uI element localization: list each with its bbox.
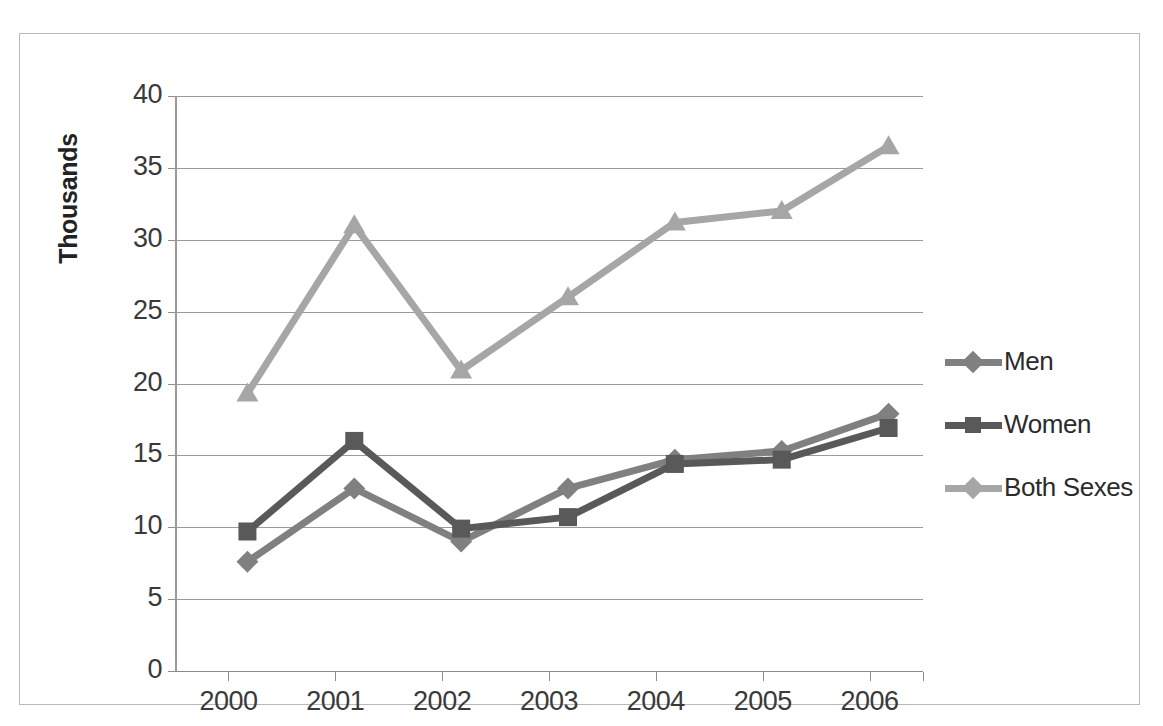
diamond-marker-icon: [557, 477, 579, 499]
diamond-marker-icon: [450, 531, 472, 553]
gridline: [175, 384, 923, 385]
x-axis-tick: [763, 672, 764, 681]
x-axis-tick: [870, 672, 871, 681]
y-axis-tick-labels: 0510152025303540: [82, 34, 162, 726]
y-axis-tick-label: 0: [102, 656, 162, 683]
legend-key-men: [945, 351, 1002, 373]
legend-key-both-sexes: [945, 477, 1002, 499]
x-axis-tick: [335, 672, 336, 681]
y-axis-tick: [168, 312, 175, 313]
square-marker-icon: [452, 520, 470, 538]
triangle-marker-icon: [878, 135, 900, 154]
legend-item-both-sexes[interactable]: Both Sexes: [945, 456, 1155, 519]
legend-item-women[interactable]: Women: [945, 393, 1155, 456]
diamond-marker-icon: [962, 350, 985, 373]
diamond-marker-icon: [343, 477, 365, 499]
x-axis-tick: [442, 672, 443, 681]
y-axis-tick: [168, 671, 175, 672]
series-both-sexes: [236, 135, 899, 401]
series-line: [247, 428, 888, 532]
y-axis-tick-label: 40: [102, 81, 162, 108]
series-men: [236, 403, 899, 573]
triangle-marker-icon: [962, 476, 985, 499]
legend-label-both-sexes: Both Sexes: [1004, 472, 1133, 503]
gridline: [175, 96, 923, 97]
y-axis-tick-label: 15: [102, 440, 162, 467]
legend-label-women: Women: [1004, 409, 1091, 440]
square-marker-icon: [773, 451, 791, 469]
series-line: [247, 146, 888, 393]
x-axis-tick: [228, 672, 229, 681]
chart-frame: Thousands 0510152025303540 2000200120022…: [19, 33, 1140, 705]
legend-item-men[interactable]: Men: [945, 330, 1155, 393]
triangle-marker-icon: [450, 360, 472, 379]
y-axis-tick: [168, 240, 175, 241]
gridline: [175, 599, 923, 600]
triangle-marker-icon: [343, 214, 365, 233]
y-axis-tick-label: 10: [102, 512, 162, 539]
gridline: [175, 455, 923, 456]
triangle-marker-icon: [664, 211, 686, 230]
diamond-marker-icon: [878, 403, 900, 425]
y-axis-tick: [168, 384, 175, 385]
x-axis-tick: [549, 672, 550, 681]
y-axis-tick: [168, 168, 175, 169]
square-marker-icon: [238, 523, 256, 541]
y-axis-tick: [168, 599, 175, 600]
y-axis-tick: [168, 527, 175, 528]
x-axis-tick: [656, 672, 657, 681]
diamond-marker-icon: [664, 449, 686, 471]
square-marker-icon: [965, 417, 981, 433]
y-axis-tick-label: 35: [102, 153, 162, 180]
legend: Men Women Both Sexes: [945, 330, 1155, 519]
legend-key-women: [945, 414, 1002, 436]
y-axis-title: Thousands: [54, 99, 83, 299]
y-axis-tick: [168, 455, 175, 456]
y-axis-tick: [168, 96, 175, 97]
gridline: [175, 240, 923, 241]
y-axis-tick-label: 20: [102, 369, 162, 396]
y-axis-tick-label: 30: [102, 225, 162, 252]
y-axis-tick-label: 5: [102, 584, 162, 611]
gridline: [175, 527, 923, 528]
gridline: [175, 312, 923, 313]
square-marker-icon: [666, 455, 684, 473]
gridline: [175, 168, 923, 169]
square-marker-icon: [880, 419, 898, 437]
y-axis-tick-label: 25: [102, 297, 162, 324]
triangle-marker-icon: [557, 286, 579, 305]
series-line: [247, 414, 888, 562]
x-axis-tick: [923, 672, 924, 681]
triangle-marker-icon: [236, 383, 258, 402]
legend-label-men: Men: [1004, 346, 1053, 377]
square-marker-icon: [559, 508, 577, 526]
x-axis-tick-label: 2006: [800, 686, 940, 717]
diamond-marker-icon: [771, 440, 793, 462]
series-women: [238, 419, 897, 541]
triangle-marker-icon: [771, 200, 793, 219]
diamond-marker-icon: [236, 551, 258, 573]
square-marker-icon: [345, 432, 363, 450]
